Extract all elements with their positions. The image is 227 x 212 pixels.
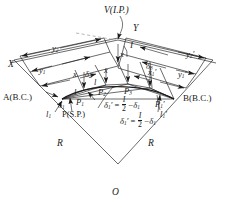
offset-y1: y1 bbox=[39, 66, 45, 75]
dim-frame-y2-left bbox=[20, 38, 104, 56]
ordinate-p3 bbox=[117, 60, 128, 84]
curve-deflection-diagram: V(I.P.) Y X I A(B.C.) B(B.C.) P(S.P.) O … bbox=[0, 0, 227, 212]
tangent-left-axis bbox=[10, 40, 118, 63]
x-axis-label: X bbox=[8, 60, 14, 70]
dim-tie-left-a bbox=[20, 56, 30, 72]
bc-left-label: A(B.C.) bbox=[3, 93, 32, 102]
sp-mid-label: P(S.P.) bbox=[62, 110, 85, 119]
leader-vertex bbox=[118, 16, 123, 39]
offset-y1-prime: y1′ bbox=[178, 70, 186, 79]
dashed-construction-line bbox=[76, 33, 116, 40]
station-p1: P1 bbox=[76, 98, 84, 107]
radius-right-label: R bbox=[148, 139, 154, 149]
intersection-angle-label: I bbox=[130, 41, 133, 50]
deflection-d1: δ1 bbox=[58, 101, 65, 110]
equation-lower: δ1′ = I 2 −δ1 bbox=[120, 112, 156, 129]
fraction-lower: I 2 bbox=[138, 112, 143, 129]
fraction-upper: I 2 bbox=[122, 96, 127, 113]
radius-left-label: R bbox=[57, 139, 63, 149]
station-p3: P3 bbox=[124, 87, 132, 96]
dim-tie-right-c bbox=[186, 74, 196, 88]
offset-x-left: x bbox=[73, 70, 77, 79]
offset-y2: y2 bbox=[52, 44, 58, 53]
offset-x-prime: x1′ bbox=[148, 68, 156, 77]
offset-x-right: x bbox=[120, 50, 124, 59]
chord-label-2: l bbox=[94, 78, 96, 87]
y-axis-label: Y bbox=[133, 24, 138, 34]
dim-tie-left-d bbox=[110, 52, 118, 66]
vertex-label: V(I.P.) bbox=[104, 6, 129, 16]
dim-tie-right-a bbox=[196, 58, 206, 74]
back-tangent-upper bbox=[14, 38, 118, 60]
ec-right-label: B(B.C.) bbox=[183, 94, 212, 103]
chord-label-5: l1′ bbox=[160, 110, 167, 119]
deflection-ray-b4 bbox=[150, 88, 174, 99]
station-p1-prime: P1′ bbox=[155, 100, 165, 109]
offset-x-mid: x bbox=[104, 66, 108, 75]
center-label: O bbox=[112, 188, 119, 198]
chord-label-0: l1 bbox=[46, 110, 51, 119]
deflection-d2: δ2 bbox=[85, 70, 92, 79]
equation-upper: δ1′ = I 2 −δ1 bbox=[104, 96, 140, 113]
chord-label-1: l bbox=[74, 88, 76, 97]
offset-y2-prime: y2′ bbox=[186, 50, 194, 59]
